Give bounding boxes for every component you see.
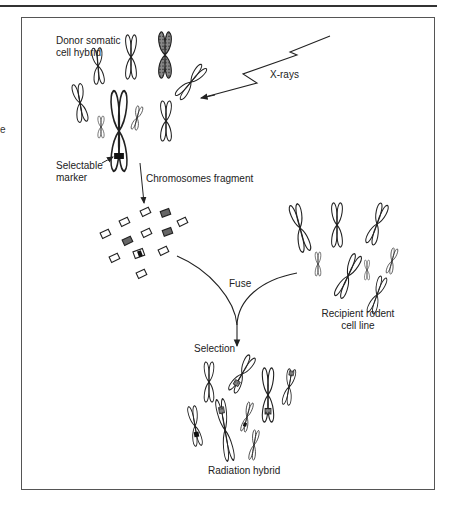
recipient-label-line1: Recipient rodent: [313, 308, 403, 320]
fuse-curve-left: [177, 256, 237, 325]
diagram-canvas: [0, 0, 455, 505]
xray-zigzag-icon: [205, 36, 330, 97]
fragment-arrow: [140, 163, 144, 203]
marker-label-line2: marker: [56, 172, 103, 184]
recipient-chromosomes: [288, 202, 398, 314]
chromosome-fragments: [100, 207, 188, 278]
donor-label-line2: cell hybrid: [56, 47, 120, 59]
xrays-label: X-rays: [270, 69, 299, 81]
recipient-label: Recipient rodent cell line: [313, 308, 403, 332]
marker-label-line1: Selectable: [56, 160, 103, 172]
fuse-label: Fuse: [229, 278, 251, 290]
fragment-label: Chromosomes fragment: [146, 173, 253, 185]
selectable-marker-label: Selectable marker: [56, 160, 103, 184]
donor-label-line1: Donor somatic: [56, 35, 120, 47]
radiation-hybrid-label: Radiation hybrid: [208, 465, 280, 477]
donor-label: Donor somatic cell hybrid: [56, 35, 120, 59]
recipient-label-line2: cell line: [313, 320, 403, 332]
selection-label: Selection: [194, 343, 235, 355]
radiation-hybrid-chromosomes: [187, 354, 296, 461]
